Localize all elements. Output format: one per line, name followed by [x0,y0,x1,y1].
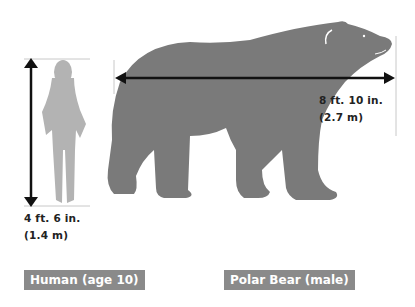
bear-length-m: (2.7 m) [319,109,383,126]
human-label: Human (age 10) [24,270,145,290]
size-comparison-graphic [0,0,415,307]
polar-bear-label: Polar Bear (male) [224,270,355,290]
human-height-m: (1.4 m) [24,227,80,244]
human-height-measurement: 4 ft. 6 in. (1.4 m) [24,210,80,244]
human-height-ft: 4 ft. 6 in. [24,210,80,227]
human-height-arrow [24,58,38,207]
bear-length-ft: 8 ft. 10 in. [319,92,383,109]
bear-length-measurement: 8 ft. 10 in. (2.7 m) [319,92,383,126]
human-silhouette [42,60,86,203]
bear-eye [363,35,365,37]
